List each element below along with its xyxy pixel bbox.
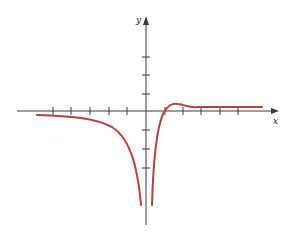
function-graph: y x [0, 0, 293, 235]
y-axis-arrow-icon [143, 16, 149, 25]
curve-right-branch [152, 104, 262, 205]
y-axis-label: y [135, 15, 142, 25]
curve-left-branch [37, 115, 141, 205]
x-axis-label: x [273, 116, 278, 126]
x-axis-arrow-icon [271, 108, 279, 114]
